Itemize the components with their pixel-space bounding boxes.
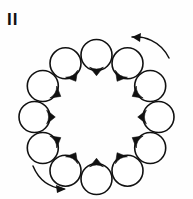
cell-body-circle bbox=[143, 102, 174, 133]
cell-body-circle bbox=[19, 102, 50, 133]
cell-body-circle bbox=[81, 40, 112, 71]
cells-layer bbox=[19, 40, 174, 195]
ring-cell bbox=[138, 102, 174, 133]
ring-diagram bbox=[0, 0, 193, 199]
cell-body-circle bbox=[81, 164, 112, 195]
ring-cell bbox=[81, 158, 112, 194]
ring-cell bbox=[19, 102, 55, 133]
figure-root: II bbox=[0, 0, 193, 199]
ring-cell bbox=[81, 40, 112, 76]
rotation-arrow-head-icon bbox=[132, 33, 141, 42]
